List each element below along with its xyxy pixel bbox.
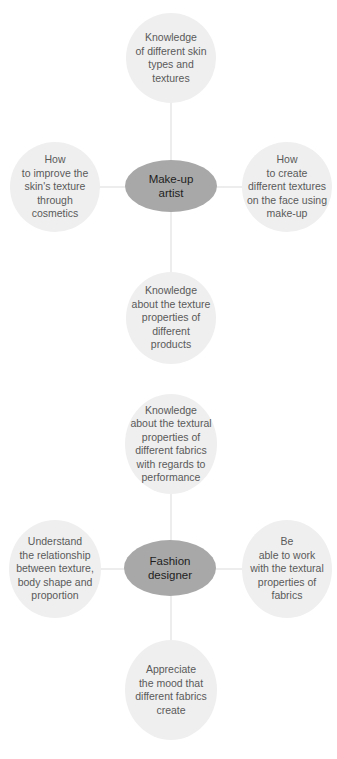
hub-fashion-designer: Fashion designer xyxy=(124,540,216,596)
node-right-text: Be able to work with the textural proper… xyxy=(250,535,324,603)
node-right: Be able to work with the textural proper… xyxy=(242,520,332,618)
node-bottom: Appreciate the mood that different fabri… xyxy=(125,640,217,740)
node-top-text: Knowledge of different skin types and te… xyxy=(135,31,206,85)
node-left-text: How to improve the skin's texture throug… xyxy=(22,153,89,221)
node-left-text: Understand the relationship between text… xyxy=(16,535,94,603)
node-right-text: How to create different textures on the … xyxy=(247,153,327,221)
node-bottom-text: Appreciate the mood that different fabri… xyxy=(135,663,207,717)
node-top: Knowledge of different skin types and te… xyxy=(126,13,216,103)
node-bottom: Knowledge about the texture properties o… xyxy=(126,272,216,364)
hub-label: Fashion designer xyxy=(148,554,192,582)
node-left: Understand the relationship between text… xyxy=(9,520,101,618)
hub-label: Make-up artist xyxy=(149,172,194,200)
node-left: How to improve the skin's texture throug… xyxy=(10,142,100,232)
node-right: How to create different textures on the … xyxy=(242,142,332,232)
node-top: Knowledge about the textural properties … xyxy=(125,394,217,494)
node-top-text: Knowledge about the textural properties … xyxy=(130,404,211,485)
hub-makeup-artist: Make-up artist xyxy=(125,160,217,212)
node-bottom-text: Knowledge about the texture properties o… xyxy=(132,284,211,352)
